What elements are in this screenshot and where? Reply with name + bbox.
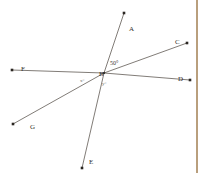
arrow-tip-c-icon [186, 42, 189, 45]
arrow-tip-d-icon [189, 79, 192, 82]
geometry-canvas [0, 0, 202, 173]
arrow-tip-g-icon [12, 123, 15, 126]
angle-FBG-label: x° [80, 78, 85, 83]
angle-ABC-label: 50° [110, 60, 118, 66]
arrow-tip-e-icon [81, 167, 84, 170]
point-label-a: A [129, 26, 134, 33]
rays-group [12, 13, 190, 168]
arrow-tip-f-icon [11, 69, 14, 72]
ray-BG [13, 73, 104, 124]
point-label-c: C [175, 39, 180, 46]
ray-BC [104, 43, 187, 73]
angle-DBE-label: y° [102, 81, 107, 86]
geometry-figure: ABCDEFG 50°x°y° [0, 0, 202, 173]
ray-BE [82, 73, 104, 168]
point-label-g: G [30, 124, 35, 131]
point-label-e: E [89, 159, 93, 166]
point-label-d: D [178, 76, 183, 83]
point-label-b: B [99, 71, 104, 78]
point-label-f: F [21, 66, 25, 73]
arrow-tips-group [11, 12, 192, 170]
ray-BF [12, 70, 104, 73]
right-edge-border [196, 0, 198, 173]
arrow-tip-a-icon [123, 12, 126, 15]
